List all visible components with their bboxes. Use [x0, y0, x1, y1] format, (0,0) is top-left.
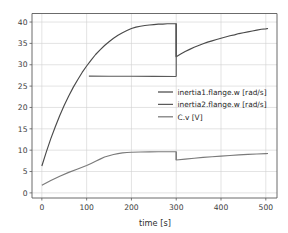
- legend-label-0: inertia1.flange.w [rad/s]: [178, 88, 267, 97]
- x-tick-label: 100: [79, 203, 94, 212]
- plot-canvas: 05101520253035400100200300400500 inertia…: [0, 0, 288, 233]
- axis-tick-labels: 05101520253035400100200300400500: [18, 18, 273, 212]
- legend-label-2: C.v [V]: [178, 113, 203, 122]
- x-tick-label: 500: [259, 203, 274, 212]
- x-tick-label: 200: [124, 203, 139, 212]
- y-tick-label: 15: [18, 125, 28, 134]
- y-tick-label: 25: [18, 82, 28, 91]
- y-tick-label: 5: [23, 167, 28, 176]
- y-tick-label: 35: [18, 39, 28, 48]
- x-tick-label: 300: [169, 203, 184, 212]
- y-tick-label: 20: [18, 103, 28, 112]
- series-line-2: [42, 152, 268, 185]
- y-tick-label: 30: [18, 60, 28, 69]
- y-tick-label: 0: [23, 189, 28, 198]
- chart-figure: 05101520253035400100200300400500 inertia…: [0, 0, 288, 233]
- chart-legend: inertia1.flange.w [rad/s]inertia2.flange…: [158, 88, 267, 122]
- y-tick-label: 10: [18, 146, 28, 155]
- x-axis-title: time [s]: [139, 218, 171, 228]
- legend-label-1: inertia2.flange.w [rad/s]: [178, 100, 267, 109]
- x-tick-label: 0: [39, 203, 44, 212]
- x-tick-label: 400: [214, 203, 229, 212]
- y-tick-label: 40: [18, 18, 28, 27]
